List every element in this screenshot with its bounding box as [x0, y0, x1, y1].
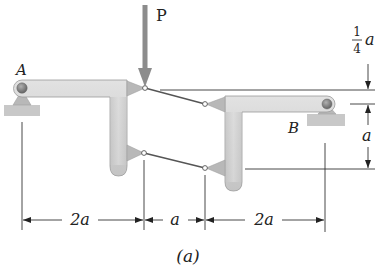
gusset-right-top — [206, 97, 225, 112]
dim-quarter-a-label: 1 4 a — [352, 25, 375, 56]
support-b-label: B — [287, 119, 299, 137]
ground-block-a — [4, 105, 40, 116]
pin-b — [322, 99, 332, 109]
load-arrow-head — [138, 68, 152, 87]
figure-caption: (a) — [176, 246, 199, 266]
pin-link-top-right — [203, 102, 208, 107]
dim-2a-left-label: 2a — [69, 210, 90, 229]
pin-link-bottom-right — [203, 166, 208, 171]
fraction-unit: a — [365, 30, 375, 49]
fraction-denominator: 4 — [353, 42, 361, 56]
right-bracket — [206, 96, 335, 191]
left-bracket-body — [14, 80, 128, 176]
pin-link-bottom-left — [142, 151, 147, 156]
left-bracket — [14, 80, 146, 176]
load-p: P — [138, 5, 167, 87]
pin-a — [17, 83, 27, 93]
link-bottom — [144, 153, 205, 168]
left-bracket-leg-shade — [111, 97, 127, 165]
support-a-label: A — [14, 61, 27, 79]
right-bracket-leg-shade — [226, 112, 242, 182]
dim-2a-right-label: 2a — [253, 210, 274, 229]
gusset-right-bottom — [206, 160, 225, 176]
ground-block-b — [307, 114, 345, 126]
dim-a-vertical-label: a — [362, 126, 372, 145]
fraction-numerator: 1 — [353, 25, 361, 39]
load-arrow-shaft — [143, 5, 148, 71]
linkage-diagram: P A B 1 4 a a 2a a 2a (a) — [0, 0, 386, 278]
load-label: P — [156, 6, 167, 25]
dim-a-label: a — [170, 210, 180, 229]
